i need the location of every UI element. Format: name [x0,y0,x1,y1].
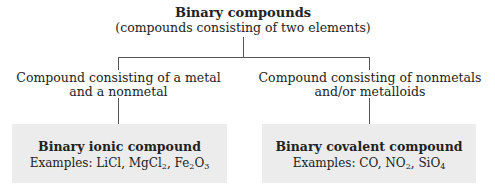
formula: Fe2O3 [175,156,210,170]
right-condition-line2: and/or metalloids [252,84,488,99]
formula: CO [359,156,377,170]
root-title: Binary compounds [0,5,486,20]
ionic-compound-examples: Examples: LiCl, MgCl2, Fe2O3 [12,156,227,174]
ionic-compound-box: Binary ionic compound Examples: LiCl, Mg… [12,124,227,183]
root-subtitle: (compounds consisting of two elements) [0,20,486,35]
connector-right-to-box [369,98,370,124]
connector-right-down [369,57,370,70]
connector-left-to-box [118,98,119,124]
connector-left-down [118,57,119,70]
left-condition-line1: Compound consisting of a metal [0,70,237,85]
connector-horizontal [118,57,370,58]
ionic-compound-title: Binary ionic compound [12,139,227,154]
formula: MgCl2 [129,156,167,170]
connector-root-down [243,37,244,57]
right-condition-line1: Compound consisting of nonmetals [252,70,488,85]
formula: LiCl [96,156,121,170]
covalent-compound-box: Binary covalent compound Examples: CO, N… [262,124,476,183]
examples-label: Examples: [293,156,360,170]
left-condition-line2: and a nonmetal [0,84,237,99]
covalent-compound-examples: Examples: CO, NO2, SiO4 [262,156,476,174]
formula: NO2 [385,156,410,170]
examples-label: Examples: [30,156,97,170]
covalent-compound-title: Binary covalent compound [262,139,476,154]
formula: SiO4 [418,156,445,170]
